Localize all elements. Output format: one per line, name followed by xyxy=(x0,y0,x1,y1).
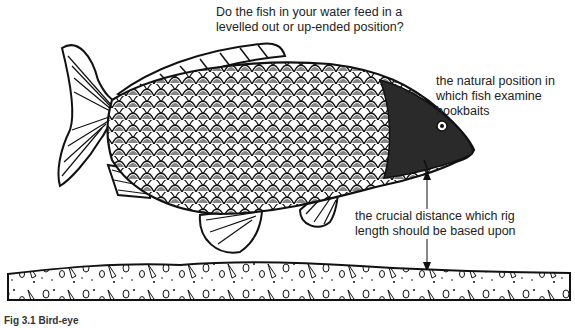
crucial-distance-annotation: the crucial distance which rig length sh… xyxy=(355,209,516,239)
question-annotation: Do the fish in your water feed in a leve… xyxy=(216,5,404,35)
lakebed xyxy=(8,262,570,300)
natural-position-annotation: the natural position in which fish exami… xyxy=(436,74,555,119)
figure-caption: Fig 3.1 Bird-eye xyxy=(4,313,78,328)
